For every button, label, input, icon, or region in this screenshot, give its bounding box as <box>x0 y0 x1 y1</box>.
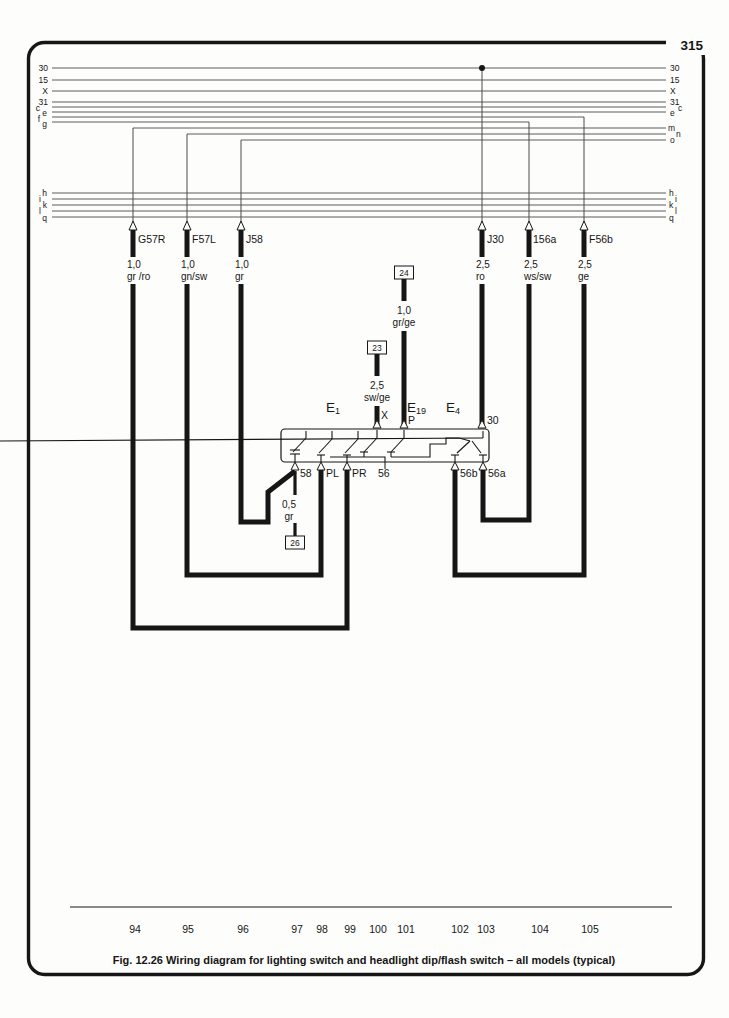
terminal-p-label: P <box>408 414 415 426</box>
wiring-diagram: 315 30 15 X 31 c e f g 30 15 X <box>0 0 729 1018</box>
svg-text:f: f <box>38 114 41 124</box>
connector-names: G57R F57L J58 J30 156a F56b <box>138 233 613 245</box>
svg-text:F57L: F57L <box>192 233 216 245</box>
svg-text:58: 58 <box>300 467 312 479</box>
svg-text:156a: 156a <box>533 233 557 245</box>
svg-text:sw/ge: sw/ge <box>364 392 391 403</box>
svg-text:n: n <box>676 129 681 139</box>
svg-text:h: h <box>669 188 674 198</box>
svg-text:30: 30 <box>39 63 49 73</box>
svg-text:E4: E4 <box>446 400 460 416</box>
svg-text:l: l <box>675 206 677 216</box>
continuation-arrows <box>129 221 588 230</box>
rail-labels-right-lower: h i k l q <box>669 188 677 223</box>
terminal-x-label: X <box>381 409 388 421</box>
ref-26: 26 <box>290 538 300 548</box>
svg-text:k: k <box>669 200 674 210</box>
page-number: 315 <box>680 38 703 53</box>
svg-text:o: o <box>670 135 675 145</box>
manual-page: 315 30 15 X 31 c e f g 30 15 X <box>0 0 729 1018</box>
svg-text:X: X <box>670 86 676 96</box>
svg-text:e: e <box>670 108 675 118</box>
svg-text:q: q <box>42 213 47 223</box>
svg-text:gn/sw: gn/sw <box>181 271 208 282</box>
figure-caption: Fig. 12.26 Wiring diagram for lighting s… <box>113 954 616 966</box>
svg-text:k: k <box>43 200 48 210</box>
svg-text:1,0: 1,0 <box>235 259 249 270</box>
svg-text:56b: 56b <box>460 467 478 479</box>
svg-text:G57R: G57R <box>138 233 166 245</box>
component-labels: E1 E19 E4 X P 30 <box>326 400 499 426</box>
svg-text:98: 98 <box>316 923 328 935</box>
svg-text:ws/sw: ws/sw <box>523 271 552 282</box>
rail-labels-left-upper: 30 15 X 31 c e f g <box>36 63 49 129</box>
svg-text:l: l <box>39 206 41 216</box>
page-border <box>29 33 709 975</box>
wire-j58-to-58 <box>241 284 295 522</box>
svg-text:1,0: 1,0 <box>397 305 411 316</box>
svg-text:m: m <box>668 123 675 133</box>
svg-text:PL: PL <box>326 467 339 479</box>
svg-text:gr/ge: gr/ge <box>393 317 416 328</box>
svg-text:ro: ro <box>476 271 485 282</box>
svg-text:2,5: 2,5 <box>578 259 592 270</box>
svg-text:0,5: 0,5 <box>282 499 296 510</box>
svg-text:g: g <box>42 119 47 129</box>
svg-text:E1: E1 <box>326 400 340 416</box>
svg-text:q: q <box>669 213 674 223</box>
wire-size-labels: 1,0 gr /ro 1,0 gn/sw 1,0 gr 2,5 ro 2,5 w… <box>127 259 592 282</box>
svg-text:103: 103 <box>477 923 495 935</box>
svg-text:102: 102 <box>451 923 469 935</box>
svg-text:100: 100 <box>369 923 387 935</box>
svg-text:15: 15 <box>39 75 49 85</box>
svg-text:15: 15 <box>670 75 680 85</box>
svg-text:2,5: 2,5 <box>370 380 384 391</box>
svg-text:gr: gr <box>285 511 295 522</box>
svg-text:96: 96 <box>237 923 249 935</box>
svg-text:h: h <box>42 188 47 198</box>
wire-156a-to-56a <box>483 284 529 520</box>
svg-text:e: e <box>42 108 47 118</box>
rail-junction-dot <box>479 65 485 71</box>
svg-text:i: i <box>39 194 41 204</box>
svg-text:95: 95 <box>182 923 194 935</box>
svg-text:56a: 56a <box>488 467 506 479</box>
svg-text:i: i <box>675 194 677 204</box>
svg-text:J30: J30 <box>487 233 504 245</box>
svg-text:97: 97 <box>291 923 303 935</box>
svg-text:gr /ro: gr /ro <box>127 271 151 282</box>
svg-text:56: 56 <box>378 467 390 479</box>
svg-text:gr: gr <box>235 271 245 282</box>
svg-text:94: 94 <box>129 923 141 935</box>
current-rails <box>52 68 666 217</box>
box-top-arrows <box>373 420 486 428</box>
svg-text:101: 101 <box>397 923 415 935</box>
svg-text:ge: ge <box>578 271 590 282</box>
svg-text:105: 105 <box>581 923 599 935</box>
svg-text:1,0: 1,0 <box>181 259 195 270</box>
ref-23: 23 <box>372 343 382 353</box>
rail-labels-right-upper: 30 15 X 31 c e m n o <box>668 63 683 145</box>
svg-text:1,0: 1,0 <box>127 259 141 270</box>
ref-24: 24 <box>399 268 409 278</box>
svg-text:PR: PR <box>352 467 367 479</box>
svg-text:2,5: 2,5 <box>524 259 538 270</box>
svg-text:99: 99 <box>344 923 356 935</box>
svg-text:30: 30 <box>670 63 680 73</box>
svg-text:c: c <box>678 103 683 113</box>
rail-labels-left-lower: h i k l q <box>39 188 48 223</box>
svg-text:2,5: 2,5 <box>476 259 490 270</box>
terminal-30-label: 30 <box>487 414 499 426</box>
svg-text:X: X <box>42 86 48 96</box>
svg-text:F56b: F56b <box>589 233 613 245</box>
track-numbers: 94 95 96 97 98 99 100 101 102 103 104 10… <box>129 923 599 935</box>
terminal-labels: 58 PL PR 56 56b 56a <box>300 467 506 479</box>
svg-text:104: 104 <box>531 923 549 935</box>
svg-text:J58: J58 <box>246 233 263 245</box>
